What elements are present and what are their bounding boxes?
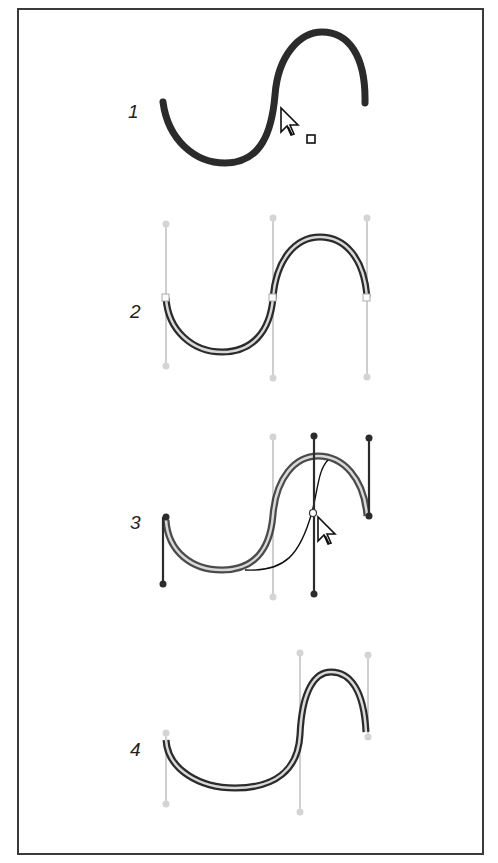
direct-select-cursor-icon (281, 108, 315, 143)
step-2-anchor-points (162, 294, 370, 301)
step-3-original-curve (166, 456, 367, 570)
step-2-curve (166, 237, 367, 352)
step-4-handles (166, 653, 368, 812)
curve-illustration (0, 0, 498, 863)
step-3-selected-anchor (310, 510, 317, 517)
step-1-curve (163, 32, 365, 163)
step-4-curve (166, 672, 366, 788)
step-3-handle-points (160, 433, 373, 598)
direct-select-cursor-icon (318, 517, 335, 544)
